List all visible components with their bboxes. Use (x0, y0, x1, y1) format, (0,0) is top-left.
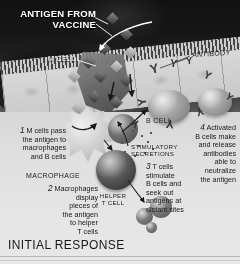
step-text: T cells stimulate B cells and seek out a… (146, 162, 184, 214)
immune-response-figure: Y Y Y Y Y Y Y Y Y (0, 0, 240, 264)
label-stimulatory-secretions: STIMULATORY SECRETIONS (131, 143, 178, 158)
step-number: 2 (48, 184, 53, 193)
t-cell-daughter (146, 222, 157, 233)
divider-rule (0, 260, 240, 261)
step-caption-2: 2 Macrophages display pieces of the anti… (36, 185, 98, 237)
step-caption-4: 4 Activated B cells make and release ant… (192, 124, 236, 184)
antibody-icon: Y (169, 58, 178, 70)
step-caption-1: 1 M cells pass the antigen to macrophage… (4, 127, 66, 161)
step-caption-3: 3 T cells stimulate B cells and seek out… (146, 163, 194, 215)
step-text: Activated B cells make and release antib… (195, 123, 236, 184)
divider-rule (0, 256, 240, 257)
figure-title: INITIAL RESPONSE (8, 238, 125, 252)
label-antigen-from-vaccine: ANTIGEN FROM VACCINE (8, 8, 96, 30)
label-b-cell: B CELL (146, 117, 172, 124)
step-text: M cells pass the antigen to macrophages … (22, 126, 66, 161)
step-text: Macrophages display pieces of the antige… (54, 184, 98, 236)
label-m-cell: M CELL (48, 55, 75, 62)
label-macrophage: MACROPHAGE (26, 172, 80, 179)
label-helper-t-cell: HELPER T CELL (98, 192, 128, 207)
